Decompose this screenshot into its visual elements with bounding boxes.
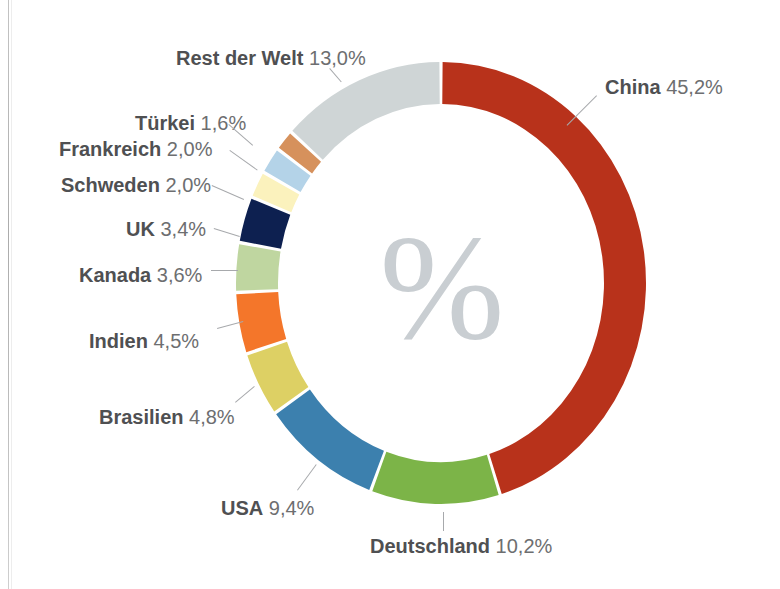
slice-label: China 45,2% — [605, 77, 723, 97]
donut-slice[interactable] — [236, 292, 286, 352]
donut-slice[interactable] — [236, 244, 281, 290]
donut-slice[interactable] — [292, 62, 439, 160]
donut-slice[interactable] — [276, 389, 384, 490]
slice-label-name: Indien — [89, 330, 148, 352]
slice-label: Indien 4,5% — [89, 331, 199, 351]
slice-label: Schweden 2,0% — [61, 175, 211, 195]
slice-label-name: Kanada — [79, 264, 151, 286]
slice-label-name: Brasilien — [99, 406, 183, 428]
slice-label: Türkei 1,6% — [135, 113, 246, 133]
chart-page: % China 45,2%Deutschland 10,2%USA 9,4%Br… — [0, 0, 780, 589]
leader-line — [443, 512, 444, 531]
slice-label-percent: 3,4% — [160, 218, 206, 240]
slice-label-name: Frankreich — [59, 138, 161, 160]
slice-label: Frankreich 2,0% — [59, 139, 212, 159]
slice-label-name: Schweden — [61, 174, 160, 196]
slice-label: UK 3,4% — [126, 219, 206, 239]
slice-label-name: Rest der Welt — [176, 47, 303, 69]
slice-label-percent: 13,0% — [309, 47, 366, 69]
slice-label-name: China — [605, 76, 661, 98]
slice-label-name: UK — [126, 218, 155, 240]
donut-slice[interactable] — [372, 452, 498, 504]
slice-label: Deutschland 10,2% — [370, 536, 552, 556]
slice-label-percent: 2,0% — [165, 174, 211, 196]
leader-line — [211, 270, 238, 271]
slice-label-percent: 1,6% — [201, 112, 247, 134]
slice-label-name: Türkei — [135, 112, 195, 134]
slice-label-percent: 4,5% — [153, 330, 199, 352]
slice-label-percent: 45,2% — [666, 76, 723, 98]
slice-label-percent: 4,8% — [189, 406, 235, 428]
slice-label: USA 9,4% — [221, 498, 314, 518]
slice-label-percent: 10,2% — [496, 535, 553, 557]
slice-label-percent: 9,4% — [269, 497, 315, 519]
slice-label-name: USA — [221, 497, 263, 519]
center-percent-symbol: % — [380, 212, 503, 362]
slice-label-name: Deutschland — [370, 535, 490, 557]
slice-label: Brasilien 4,8% — [99, 407, 235, 427]
slice-label: Rest der Welt 13,0% — [176, 48, 366, 68]
donut-chart: % China 45,2%Deutschland 10,2%USA 9,4%Br… — [0, 0, 780, 589]
slice-label: Kanada 3,6% — [79, 265, 202, 285]
slice-label-percent: 2,0% — [167, 138, 213, 160]
slice-label-percent: 3,6% — [157, 264, 203, 286]
